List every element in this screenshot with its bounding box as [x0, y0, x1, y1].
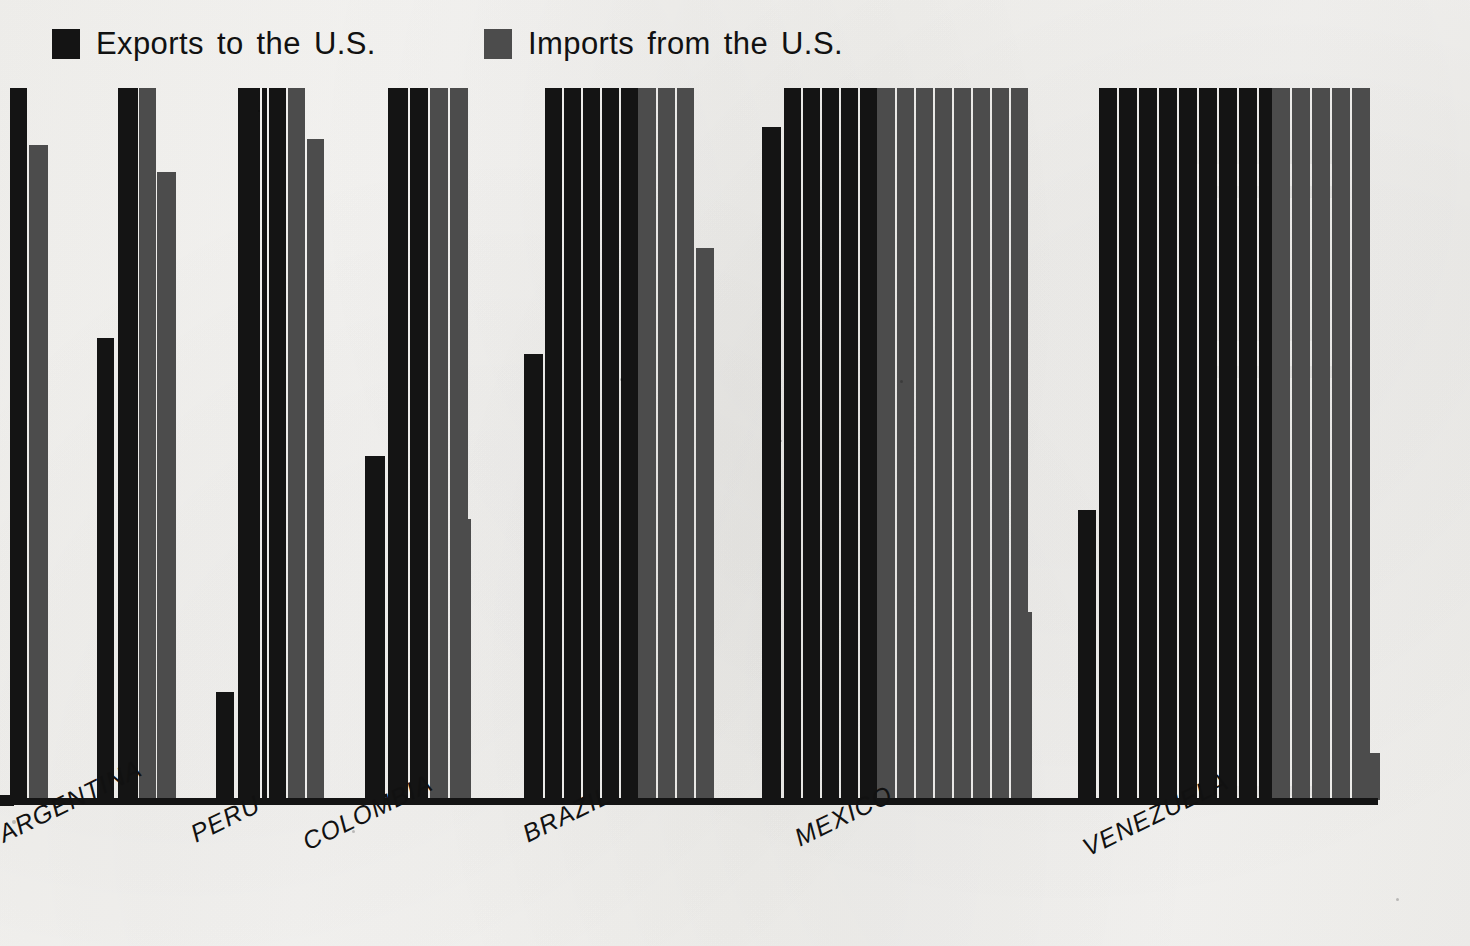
- legend-label-exports: Exports to the U.S.: [96, 26, 376, 62]
- bar-imports: [935, 88, 952, 800]
- bar-exports: [583, 88, 600, 800]
- legend-item-imports[interactable]: Imports from the U.S.: [484, 26, 843, 62]
- bar-exports: [410, 88, 428, 800]
- bar-exports: [269, 88, 286, 800]
- bar-exports: [97, 338, 114, 800]
- bar-exports: [365, 456, 385, 800]
- bar-exports: [1119, 88, 1137, 800]
- bar-exports: [1159, 88, 1177, 800]
- bar-exports: [238, 88, 260, 800]
- bar-imports: [157, 172, 176, 800]
- bar-exports: [1179, 88, 1197, 800]
- bar-exports: [1219, 88, 1237, 800]
- bar-imports: [638, 88, 656, 800]
- bar-imports: [1360, 753, 1380, 800]
- bar-exports: [784, 88, 801, 800]
- bar-exports: [841, 88, 858, 800]
- bar-imports: [677, 88, 694, 800]
- bar-exports: [621, 88, 638, 800]
- bar-imports: [696, 248, 714, 800]
- legend-label-imports: Imports from the U.S.: [528, 26, 843, 62]
- bar-imports: [897, 88, 914, 800]
- bar-exports: [1078, 510, 1096, 800]
- bar-exports: [1199, 88, 1217, 800]
- bar-exports: [545, 88, 562, 800]
- bar-imports: [877, 88, 895, 800]
- bar-imports: [916, 88, 933, 800]
- bar-exports: [524, 354, 543, 800]
- bar-exports: [803, 88, 820, 800]
- bar-imports: [1292, 88, 1310, 800]
- bar-imports: [288, 88, 305, 800]
- bar-exports: [216, 692, 234, 800]
- bar-imports: [992, 88, 1009, 800]
- bar-exports: [388, 88, 408, 800]
- bar-exports: [762, 127, 781, 800]
- bar-exports: [10, 88, 27, 800]
- bar-imports: [453, 519, 471, 800]
- bar-imports: [1312, 88, 1330, 800]
- x-axis-category-labels: ARGENTINAPERUCOLOMBIABRAZILMEXICOVENEZUE…: [0, 800, 1470, 946]
- legend-swatch-exports-icon: [52, 29, 80, 59]
- bar-exports: [602, 88, 619, 800]
- bar-exports: [1239, 88, 1257, 800]
- bar-exports: [1099, 88, 1117, 800]
- bar-exports: [262, 88, 267, 800]
- bar-imports: [954, 88, 971, 800]
- bar-chart-plot-area: [0, 86, 1470, 800]
- bar-imports: [1352, 88, 1370, 800]
- bar-exports: [860, 88, 877, 800]
- bar-imports: [307, 139, 324, 800]
- bar-imports: [29, 145, 48, 800]
- bar-imports: [1014, 612, 1032, 800]
- bar-imports: [658, 88, 675, 800]
- bar-imports: [1272, 88, 1290, 800]
- legend-item-exports[interactable]: Exports to the U.S.: [52, 26, 376, 62]
- legend-swatch-imports-icon: [484, 29, 512, 59]
- chart-legend: Exports to the U.S. Imports from the U.S…: [0, 0, 1470, 86]
- bar-imports: [1332, 88, 1350, 800]
- bar-exports: [564, 88, 581, 800]
- bar-imports: [139, 88, 156, 800]
- bar-imports: [430, 88, 448, 800]
- bar-exports: [1139, 88, 1157, 800]
- bar-imports: [973, 88, 990, 800]
- bar-exports: [822, 88, 839, 800]
- bar-exports: [118, 88, 138, 800]
